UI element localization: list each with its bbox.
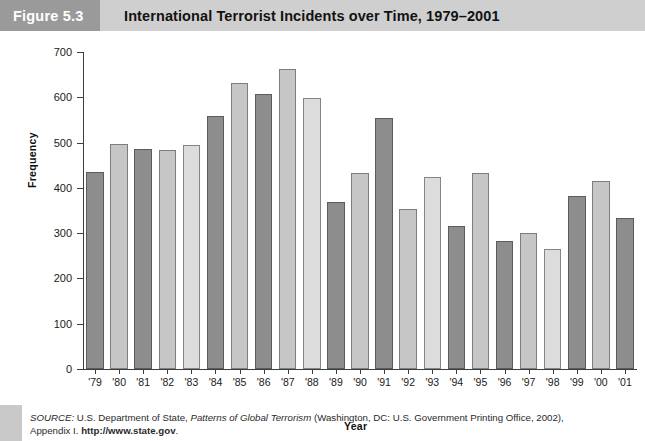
x-tick-mark bbox=[480, 370, 481, 374]
y-tick-label: 500 bbox=[32, 138, 72, 149]
x-tick-mark bbox=[360, 370, 361, 374]
x-tick-mark bbox=[384, 370, 385, 374]
bar bbox=[183, 145, 201, 369]
x-tick-mark bbox=[264, 370, 265, 374]
bar bbox=[544, 249, 562, 369]
bar-series bbox=[83, 52, 637, 369]
figure-title: International Terrorist Incidents over T… bbox=[100, 8, 500, 24]
x-tick-mark bbox=[143, 370, 144, 374]
y-tick-label: 600 bbox=[32, 92, 72, 103]
bar bbox=[616, 218, 634, 369]
figure-page: Figure 5.3 International Terrorist Incid… bbox=[0, 0, 645, 441]
source-publication-title: Patterns of Global Terrorism bbox=[190, 412, 311, 423]
bar bbox=[279, 69, 297, 369]
x-tick-mark bbox=[95, 370, 96, 374]
y-tick-label: 400 bbox=[32, 183, 72, 194]
bar bbox=[110, 144, 128, 369]
bar bbox=[375, 118, 393, 369]
x-tick-mark bbox=[336, 370, 337, 374]
y-tick-label: 200 bbox=[32, 273, 72, 284]
x-tick-mark bbox=[288, 370, 289, 374]
x-tick-mark bbox=[215, 370, 216, 374]
x-tick-mark bbox=[553, 370, 554, 374]
figure-header-band: Figure 5.3 International Terrorist Incid… bbox=[0, 0, 645, 31]
bar bbox=[592, 181, 610, 369]
bar bbox=[448, 226, 466, 369]
bar-chart: 0100200300400500600700 Frequency '79'80'… bbox=[0, 33, 645, 405]
y-tick-label: 700 bbox=[32, 47, 72, 58]
source-note: SOURCE: U.S. Department of State, Patter… bbox=[30, 411, 630, 437]
x-tick-mark bbox=[119, 370, 120, 374]
bar bbox=[496, 241, 514, 369]
y-axis-title: Frequency bbox=[26, 132, 38, 188]
source-text-1: U.S. Department of State, bbox=[74, 412, 190, 423]
bar bbox=[255, 94, 273, 369]
bar bbox=[351, 173, 369, 369]
figure-number-box: Figure 5.3 bbox=[0, 0, 100, 31]
source-line-2: Appendix I. http://www.state.gov. bbox=[30, 424, 630, 437]
bar bbox=[86, 172, 104, 369]
x-tick-mark bbox=[191, 370, 192, 374]
y-tick-label: 300 bbox=[32, 228, 72, 239]
bar bbox=[520, 233, 538, 369]
bar bbox=[399, 209, 417, 369]
figure-number-label: Figure 5.3 bbox=[0, 8, 84, 24]
y-tick-mark bbox=[77, 369, 83, 370]
bar bbox=[231, 83, 249, 369]
bar bbox=[207, 116, 225, 369]
y-tick-label: 100 bbox=[32, 319, 72, 330]
x-tick-mark bbox=[240, 370, 241, 374]
source-text-2: (Washington, DC: U.S. Government Printin… bbox=[311, 412, 564, 423]
bar bbox=[303, 98, 321, 369]
x-tick-mark bbox=[456, 370, 457, 374]
x-tick-mark bbox=[529, 370, 530, 374]
bar bbox=[159, 150, 177, 369]
bar bbox=[472, 173, 490, 369]
x-tick-mark bbox=[601, 370, 602, 374]
source-appendix: Appendix I. bbox=[30, 425, 81, 436]
x-tick-label: '01 bbox=[610, 377, 640, 388]
bar bbox=[327, 202, 345, 369]
bar bbox=[134, 149, 152, 369]
x-tick-mark bbox=[167, 370, 168, 374]
bar bbox=[424, 177, 442, 369]
x-tick-mark bbox=[625, 370, 626, 374]
x-tick-mark bbox=[577, 370, 578, 374]
x-tick-mark bbox=[432, 370, 433, 374]
figure-title-box: International Terrorist Incidents over T… bbox=[100, 0, 645, 31]
y-tick-label: 0 bbox=[32, 364, 72, 375]
bar bbox=[568, 196, 586, 369]
x-tick-mark bbox=[408, 370, 409, 374]
x-tick-mark bbox=[505, 370, 506, 374]
source-url[interactable]: http://www.state.gov bbox=[81, 425, 175, 436]
source-period: . bbox=[176, 425, 179, 436]
x-tick-mark bbox=[312, 370, 313, 374]
source-prefix: SOURCE: bbox=[30, 412, 74, 423]
